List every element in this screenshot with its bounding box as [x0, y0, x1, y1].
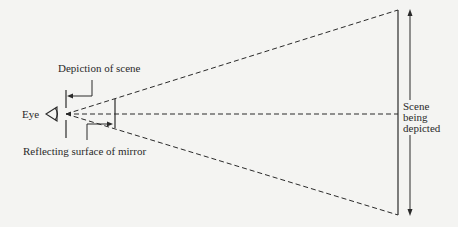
reflecting-surface-leader-arrow: [87, 122, 113, 141]
eye-point-marker: [66, 112, 71, 117]
eye-label: Eye: [22, 108, 39, 120]
scene-label-line-3: depicted: [403, 123, 437, 134]
eye-icon: [46, 107, 58, 121]
depiction-leader-arrow: [67, 80, 92, 99]
mirror-perspective-diagram: [0, 0, 458, 227]
sight-line-bottom: [66, 114, 398, 215]
depiction-of-scene-label: Depiction of scene: [58, 62, 140, 74]
scene-being-depicted-label: Scene being depicted: [403, 100, 437, 135]
reflecting-surface-label: Reflecting surface of mirror: [23, 145, 146, 157]
